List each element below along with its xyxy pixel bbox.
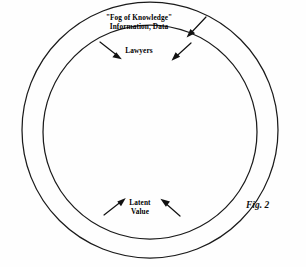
inner-core-label: Latent Value: [113, 198, 167, 216]
figure-diagram-fog-of-knowledge: "Fog of Knowledge" Information, Data Law…: [0, 0, 306, 267]
lawyers-arrow-right: [172, 43, 192, 61]
inner-core-label-line1: Latent: [113, 198, 167, 207]
figure-caption: Fig. 2: [246, 200, 298, 210]
outer-circle: [22, 2, 278, 258]
inner-core-label-line2: Value: [113, 207, 167, 216]
boundary-label: Lawyers: [109, 46, 169, 55]
outer-ring-label-line1: "Fog of Knowledge": [79, 13, 199, 22]
figure-canvas: [0, 0, 306, 267]
outer-ring-label: "Fog of Knowledge" Information, Data: [79, 13, 199, 31]
boundary-label-text: Lawyers: [109, 46, 169, 55]
outer-ring-label-line2: Information, Data: [79, 22, 199, 31]
